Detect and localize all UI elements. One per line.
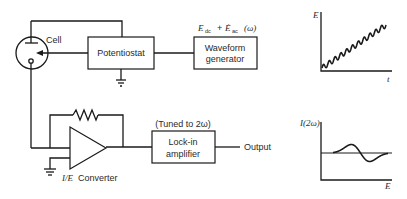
working-electrode	[29, 59, 33, 63]
converter-ground-icon	[44, 169, 56, 175]
output-label: Output	[244, 142, 272, 152]
converter-label-italic: I/E	[61, 173, 73, 183]
svg-text:dc: dc	[205, 28, 211, 34]
op-amp-ground-wire	[50, 158, 70, 169]
waveform-generator-box	[194, 37, 257, 69]
svg-text:E: E	[197, 23, 204, 33]
plot-bottom-ylabel: I(2ω)	[299, 118, 320, 128]
lockin-tuned-label: (Tuned to 2ω)	[155, 119, 211, 129]
waveform-label-line2: generator	[206, 54, 245, 64]
plot-e-vs-t: E t	[312, 10, 392, 84]
diagram-canvas: Cell Potentiostat Waveform generator E d…	[0, 0, 407, 199]
plot-i2w-vs-e: I(2ω) E	[299, 118, 392, 191]
counter-electrode-arrow	[36, 50, 43, 56]
ie-converter	[31, 110, 123, 175]
lockin-label-line2: amplifier	[166, 149, 200, 159]
waveform-signal-label: E dc + Ė ac (ω)	[197, 23, 256, 34]
lockin-label-line1: Lock-in	[168, 137, 197, 147]
feedback-right-wire	[98, 115, 123, 147]
potentiostat-label: Potentiostat	[97, 48, 145, 58]
plot-bottom-axes	[321, 122, 392, 180]
waveform-label-line1: Waveform	[205, 43, 246, 53]
reference-wire	[31, 21, 122, 37]
svg-text:+: +	[217, 23, 222, 33]
op-amp-triangle	[70, 127, 106, 169]
potentiostat-ground-icon	[116, 69, 126, 86]
plot-top-waveform	[322, 25, 386, 68]
plot-top-xlabel: t	[387, 74, 390, 84]
plot-top-ylabel: E	[312, 10, 319, 20]
svg-text:ac: ac	[232, 28, 238, 34]
feedback-resistor-icon	[73, 110, 98, 120]
cell-label: Cell	[46, 35, 62, 45]
svg-text:(ω): (ω)	[244, 23, 256, 33]
converter-label: Converter	[78, 173, 118, 183]
electrochemical-cell	[16, 21, 48, 148]
plot-top-axes	[321, 12, 392, 71]
plot-bottom-xlabel: E	[384, 181, 391, 191]
svg-text:Ė: Ė	[224, 23, 231, 33]
